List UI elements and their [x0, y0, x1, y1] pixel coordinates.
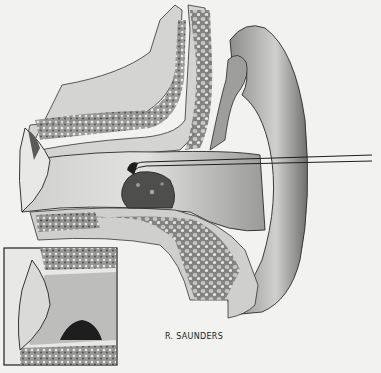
artist-signature: R. SAUNDERS [165, 332, 223, 341]
inset-closeup [4, 248, 117, 365]
ear-cross-section-drawing [0, 0, 381, 373]
lesion-mass [122, 172, 175, 208]
ear-illustration: R. SAUNDERS [0, 0, 381, 373]
